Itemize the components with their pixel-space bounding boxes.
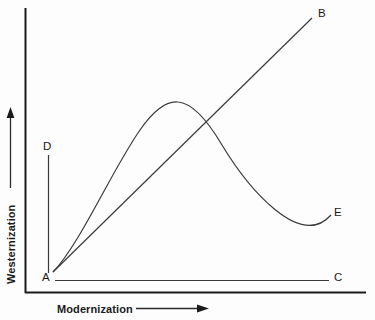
point-label-d: D [43,140,51,152]
point-label-b: B [318,7,326,19]
point-label-e: E [334,206,342,218]
chart-background [0,0,375,320]
y-axis-title: Westernization [5,204,17,284]
point-label-a: A [42,271,50,283]
chart-figure: A B C D E Westernization Modernization [0,0,375,320]
x-axis-title: Modernization [57,303,133,315]
westernization-modernization-chart: A B C D E Westernization Modernization [0,0,375,320]
point-label-c: C [334,271,342,283]
